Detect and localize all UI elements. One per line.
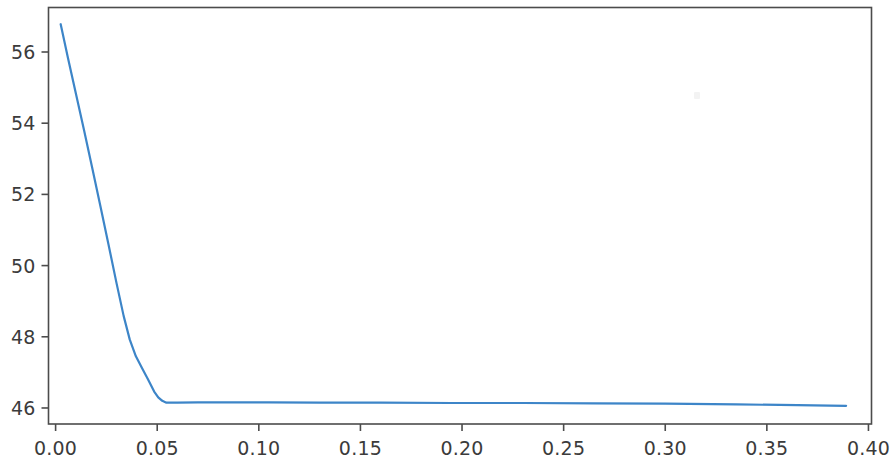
y-tick-label-1: 48 — [0, 326, 36, 348]
x-tick-label-4: 0.20 — [440, 437, 483, 459]
series-line — [61, 24, 846, 406]
data-series-group — [61, 24, 846, 406]
x-tick-label-1: 0.05 — [136, 437, 179, 459]
x-tick-label-0: 0.00 — [34, 437, 77, 459]
y-tick-label-2: 50 — [0, 255, 36, 277]
x-tick-label-2: 0.10 — [237, 437, 280, 459]
scan-artifact — [694, 92, 700, 99]
y-tick-label-0: 46 — [0, 397, 36, 419]
axes-frame — [49, 8, 872, 425]
x-tick-label-5: 0.25 — [542, 437, 585, 459]
y-tick-marks — [42, 52, 49, 408]
x-tick-label-6: 0.30 — [644, 437, 687, 459]
x-tick-label-3: 0.15 — [339, 437, 382, 459]
x-tick-label-8: 0.40 — [847, 437, 890, 459]
y-tick-label-4: 54 — [0, 112, 36, 134]
x-tick-label-7: 0.35 — [745, 437, 788, 459]
x-tick-marks — [56, 424, 869, 431]
y-tick-label-5: 56 — [0, 41, 36, 63]
plot-frame — [49, 8, 872, 425]
y-tick-label-3: 52 — [0, 183, 36, 205]
